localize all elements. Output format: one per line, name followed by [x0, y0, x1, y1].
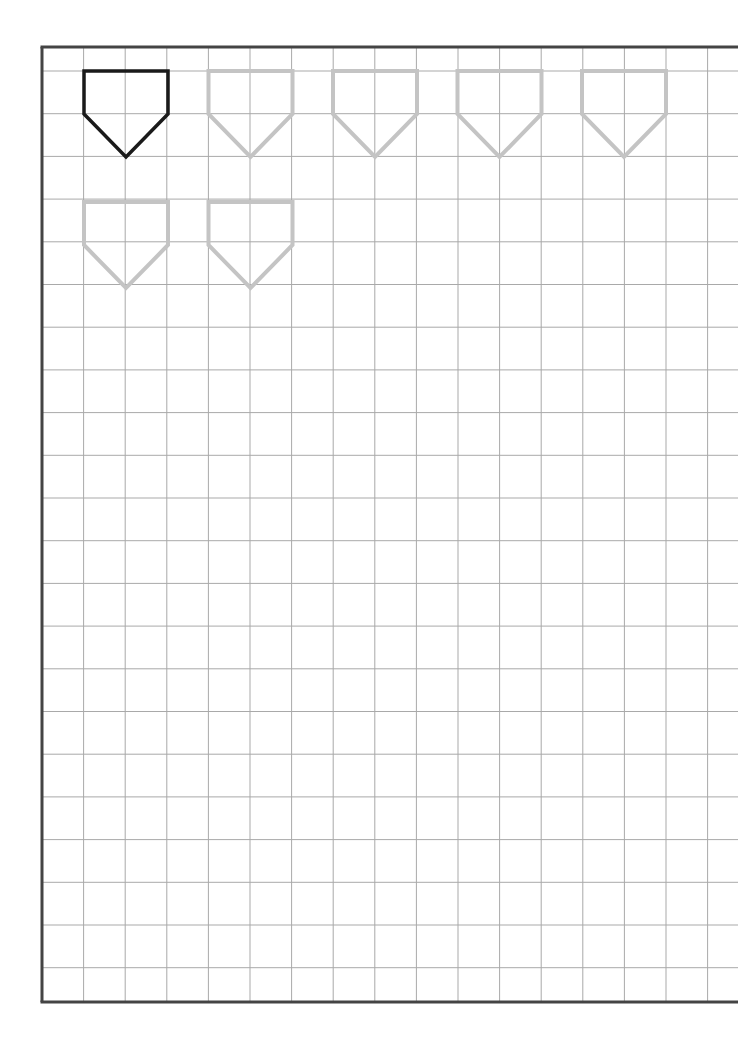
- pentagon-shape-trace: [84, 202, 168, 288]
- tracing-worksheet: [0, 0, 738, 1046]
- graph-paper-grid: [42, 47, 738, 1002]
- sheet-border: [41, 47, 738, 1002]
